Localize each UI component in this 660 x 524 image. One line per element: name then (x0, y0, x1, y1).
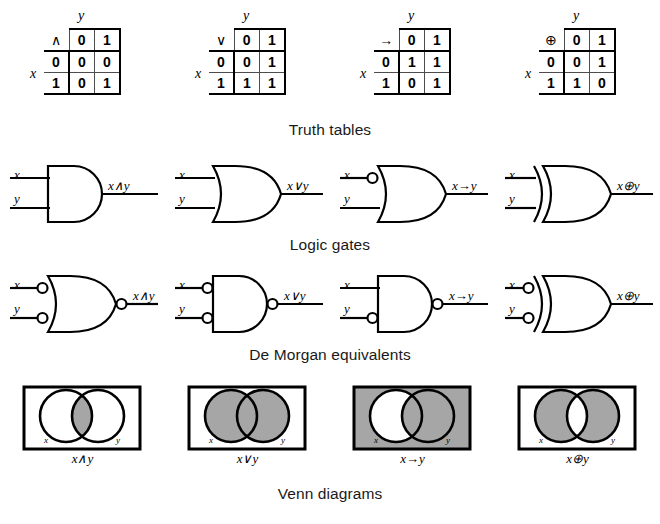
implication-gate-drawing (330, 158, 495, 230)
figure-root: yx∧01000101yx∨01001111yx→01011101yx⊕0100… (0, 0, 660, 524)
demorgan-implication-drawing (330, 268, 495, 340)
truth-table-col-var: y (78, 8, 84, 24)
table-header-row: →01 (374, 29, 450, 51)
table-cell: 0 (69, 51, 95, 73)
operator-symbol: ⊕ (539, 29, 564, 51)
inverter-bubble-output-icon (117, 299, 127, 309)
gate-body (378, 166, 446, 222)
column-header: 1 (95, 29, 121, 51)
table-cell: 1 (564, 73, 590, 95)
table-row-container: ⊕01001110 (539, 28, 616, 95)
truth-table-col-var: y (243, 8, 249, 24)
caption-demorgan: De Morgan equivalents (0, 346, 660, 364)
column-header: 0 (399, 29, 425, 51)
table-row: 011 (374, 51, 450, 73)
gate-input-label-x: x (14, 277, 20, 293)
table-cell: 1 (234, 73, 260, 95)
gate-input-label-x: x (179, 277, 185, 293)
venn-or: xyx∨y (165, 385, 330, 475)
truth-table-row-var: x (360, 66, 366, 82)
demorgan-and-drawing (0, 268, 165, 340)
gate-input-label-x: x (344, 277, 350, 293)
row-header: 0 (374, 51, 399, 73)
venn-section: xyx∧yxyx∨yxyx→yxyx⊕y Venn diagrams (0, 385, 660, 503)
gate-input-label-y: y (509, 301, 515, 317)
logic-gates-group: xyx∧yxyx∨yxyx→yxyx⊕y (0, 158, 660, 230)
truth-table-row-var: x (195, 66, 201, 82)
xor-arc (534, 276, 542, 332)
gate-input-label-x: x (179, 167, 185, 183)
venn-group: xyx∧yxyx∨yxyx→yxyx⊕y (0, 385, 660, 475)
demorgan-or-drawing (165, 268, 330, 340)
venn-implication-drawing: xy (352, 385, 472, 451)
venn-formula-label: x⊕y (495, 451, 660, 467)
table-cell: 1 (399, 51, 425, 73)
gate-output-label: x∨y (287, 178, 309, 194)
gate-input-label-y: y (344, 191, 350, 207)
truth-table-implication: yx→01011101 (330, 8, 495, 113)
table-cell: 1 (425, 51, 451, 73)
gate-input-label-y: y (179, 191, 185, 207)
caption-logic-gates: Logic gates (0, 236, 660, 254)
table-header-row: ∨01 (209, 29, 285, 51)
and-gate: xyx∧y (0, 158, 165, 230)
venn-label-y: y (610, 435, 615, 445)
truth-table-row-var: x (30, 66, 36, 82)
table-row: 101 (374, 73, 450, 95)
demorgan-xor: xyx⊕y (495, 268, 660, 340)
implication-gate: xyx→y (330, 158, 495, 230)
gate-body (213, 276, 267, 332)
demorgan-group: xyx∧yxyx∨yxyx→yxyx⊕y (0, 268, 660, 340)
column-header: 0 (564, 29, 590, 51)
demorgan-and: xyx∧y (0, 268, 165, 340)
gate-output-label: x∨y (284, 288, 306, 304)
table-row-container: →01011101 (374, 28, 451, 95)
xor-gate-drawing (495, 158, 660, 230)
caption-truth-tables: Truth tables (0, 121, 660, 139)
logic-gates-section: xyx∧yxyx∨yxyx→yxyx⊕y Logic gates (0, 158, 660, 254)
table-cell: 0 (590, 73, 616, 95)
gate-input-label-y: y (179, 301, 185, 317)
truth-table-col-var: y (408, 8, 414, 24)
gate-body (378, 276, 432, 332)
column-header: 1 (590, 29, 616, 51)
gate-body (213, 166, 281, 222)
inverter-bubble-output-icon (433, 299, 443, 309)
table-cell: 0 (95, 51, 121, 73)
inverter-bubble-x-icon (524, 283, 534, 293)
row-header: 1 (44, 73, 69, 95)
demorgan-or: xyx∨y (165, 268, 330, 340)
gate-input-label-y: y (344, 301, 350, 317)
venn-label-y: y (115, 435, 120, 445)
inverter-bubble-y-icon (203, 313, 213, 323)
row-header: 0 (44, 51, 69, 73)
table-cell: 1 (260, 73, 286, 95)
inverter-bubble-y-icon (524, 313, 534, 323)
gate-output-label: x→y (449, 288, 474, 304)
table-row: 001 (539, 51, 615, 73)
venn-or-drawing: xy (187, 385, 307, 451)
column-header: 1 (260, 29, 286, 51)
venn-label-x: x (373, 435, 378, 445)
table-cell: 0 (234, 51, 260, 73)
row-header: 1 (539, 73, 564, 95)
table-cell: 1 (95, 73, 121, 95)
gate-body (48, 166, 102, 222)
demorgan-implication: xyx→y (330, 268, 495, 340)
operator-symbol: ∧ (44, 29, 69, 51)
venn-formula-label: x∨y (165, 451, 330, 467)
column-header: 0 (69, 29, 95, 51)
truth-table-row-var: x (525, 66, 531, 82)
gate-input-label-x: x (509, 277, 515, 293)
truth-tables-section: yx∧01000101yx∨01001111yx→01011101yx⊕0100… (0, 8, 660, 139)
table-row: 001 (209, 51, 285, 73)
inverter-bubble-x-icon (38, 283, 48, 293)
venn-xor-drawing: xy (517, 385, 637, 451)
inverter-bubble-y-icon (38, 313, 48, 323)
venn-and: xyx∧y (0, 385, 165, 475)
demorgan-xor-drawing (495, 268, 660, 340)
truth-table-col-var: y (573, 8, 579, 24)
row-header: 1 (374, 73, 399, 95)
column-header: 1 (425, 29, 451, 51)
inverter-bubble-x-icon (203, 283, 213, 293)
